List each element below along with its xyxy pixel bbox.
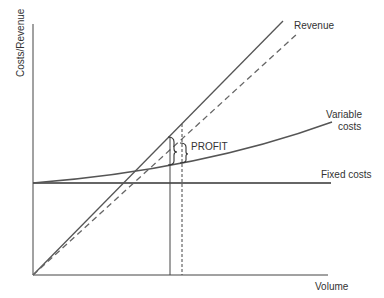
variable-costs-label-line1: Variable bbox=[326, 109, 362, 120]
cost-volume-profit-chart: Costs/Revenue Volume Revenue Variable co… bbox=[0, 0, 384, 298]
y-axis-label: Costs/Revenue bbox=[15, 8, 26, 77]
revenue-line bbox=[33, 21, 283, 275]
revenue-label: Revenue bbox=[294, 20, 334, 31]
variable-costs-label-line2: costs bbox=[338, 121, 361, 132]
total-cost-dashed-line bbox=[33, 33, 298, 275]
x-axis-label: Volume bbox=[315, 281, 349, 292]
profit-label: PROFIT bbox=[191, 141, 228, 152]
fixed-costs-label: Fixed costs bbox=[321, 169, 372, 180]
profit-brace-right bbox=[180, 143, 188, 163]
